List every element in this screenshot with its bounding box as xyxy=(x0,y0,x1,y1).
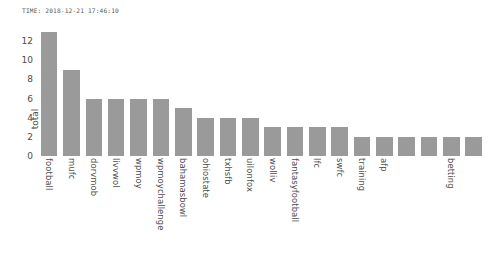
xtick-slot: txhsfb xyxy=(217,158,239,263)
bar[interactable] xyxy=(130,99,147,156)
bar-slot xyxy=(396,24,418,156)
bar[interactable] xyxy=(108,99,125,156)
x-axis-tick-labels: footballmufcdorvmoblivvwolwpmoywpmoychal… xyxy=(38,158,485,263)
bar-slot xyxy=(261,24,283,156)
xtick-slot: fantasyfootball xyxy=(284,158,306,263)
x-axis-tick: fantasyfootball xyxy=(290,158,300,222)
bar[interactable] xyxy=(41,32,58,156)
bar-slot xyxy=(217,24,239,156)
x-axis-tick: bahamasbowl xyxy=(178,158,188,217)
xtick-slot: ohiostate xyxy=(194,158,216,263)
bar-slot xyxy=(440,24,462,156)
bar-slot xyxy=(38,24,60,156)
xtick-slot: swfc xyxy=(328,158,350,263)
bar[interactable] xyxy=(376,137,393,156)
bar-chart-figure: TIME: 2018-12-21 17:46:10 total 02468101… xyxy=(0,0,496,267)
x-axis-tick: mufc xyxy=(67,158,77,179)
bar[interactable] xyxy=(175,108,192,156)
y-axis-tick: 8 xyxy=(27,74,33,84)
x-axis-tick: ohiostate xyxy=(201,158,211,198)
bar[interactable] xyxy=(63,70,80,156)
x-axis-tick: swfc xyxy=(335,158,345,177)
y-axis-tick: 6 xyxy=(27,94,33,104)
bar[interactable] xyxy=(264,127,281,156)
bar-slot xyxy=(127,24,149,156)
bar-slot xyxy=(284,24,306,156)
xtick-slot xyxy=(396,158,418,263)
x-axis-tick: uilonfox xyxy=(245,158,255,192)
bar[interactable] xyxy=(242,118,259,156)
y-axis-tick: 10 xyxy=(22,55,33,65)
bar-slot xyxy=(351,24,373,156)
chart-axes: total 024681012 xyxy=(38,24,485,156)
x-axis-tick: txhsfb xyxy=(223,158,233,185)
bar[interactable] xyxy=(421,137,438,156)
y-axis-tick: 12 xyxy=(22,36,33,46)
x-axis-tick: wolliv xyxy=(268,158,278,183)
xtick-slot: livvwol xyxy=(105,158,127,263)
xtick-slot xyxy=(418,158,440,263)
xtick-slot: betting xyxy=(440,158,462,263)
bar-slot xyxy=(463,24,485,156)
x-axis-tick: betting xyxy=(446,158,456,189)
bar[interactable] xyxy=(465,137,482,156)
bar[interactable] xyxy=(220,118,237,156)
bar[interactable] xyxy=(443,137,460,156)
bar[interactable] xyxy=(398,137,415,156)
x-axis-tick: dorvmob xyxy=(89,158,99,196)
xtick-slot: dorvmob xyxy=(83,158,105,263)
bar[interactable] xyxy=(331,127,348,156)
x-axis-tick: afp xyxy=(379,158,389,172)
bar[interactable] xyxy=(309,127,326,156)
bar-slot xyxy=(83,24,105,156)
xtick-slot xyxy=(463,158,485,263)
bar-slot xyxy=(194,24,216,156)
bar-slot xyxy=(373,24,395,156)
y-axis-tick: 0 xyxy=(27,151,33,161)
xtick-slot: wpmoy xyxy=(127,158,149,263)
bar-slot xyxy=(239,24,261,156)
bar-slot xyxy=(60,24,82,156)
xtick-slot: afp xyxy=(373,158,395,263)
bar-slot xyxy=(105,24,127,156)
bar-slot xyxy=(306,24,328,156)
bar-slot xyxy=(328,24,350,156)
xtick-slot: training xyxy=(351,158,373,263)
xtick-slot: mufc xyxy=(60,158,82,263)
bar[interactable] xyxy=(153,99,170,156)
x-axis-tick: livvwol xyxy=(111,158,121,188)
x-axis-tick: football xyxy=(44,158,54,190)
x-axis-tick: lfc xyxy=(312,158,322,168)
xtick-slot: lfc xyxy=(306,158,328,263)
bar-slot xyxy=(172,24,194,156)
bar[interactable] xyxy=(86,99,103,156)
bar-slot xyxy=(418,24,440,156)
y-axis-tick: 2 xyxy=(27,132,33,142)
y-axis-tick: 4 xyxy=(27,113,33,123)
bar[interactable] xyxy=(197,118,214,156)
xtick-slot: football xyxy=(38,158,60,263)
bar[interactable] xyxy=(354,137,371,156)
bar[interactable] xyxy=(287,127,304,156)
x-axis-tick: wpmoychallenge xyxy=(156,158,166,230)
x-axis-tick: wpmoy xyxy=(134,158,144,189)
timestamp-caption: TIME: 2018-12-21 17:46:10 xyxy=(22,7,119,14)
xtick-slot: wpmoychallenge xyxy=(150,158,172,263)
bars-container xyxy=(38,24,485,156)
x-axis-tick: training xyxy=(357,158,367,191)
xtick-slot: wolliv xyxy=(261,158,283,263)
xtick-slot: bahamasbowl xyxy=(172,158,194,263)
xtick-slot: uilonfox xyxy=(239,158,261,263)
bar-slot xyxy=(150,24,172,156)
